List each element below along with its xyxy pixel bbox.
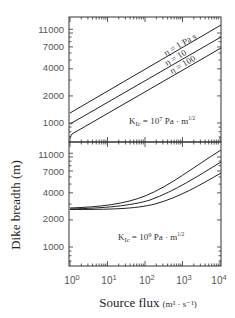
curve-eta-10 (70, 37, 221, 124)
y-tick-label: 2000 (43, 213, 64, 224)
lower-panel-frame (69, 142, 221, 266)
y-tick-label: 4000 (43, 187, 64, 198)
x-tick-label: 101 (101, 273, 116, 286)
y-tick-label: 7000 (43, 166, 64, 177)
x-tick-label: 102 (139, 273, 154, 286)
curve-eta-1-lower (70, 150, 221, 208)
y-axis-title: Dike breadth (m) (8, 160, 23, 250)
lower-y-tick-labels: 11000 7000 4000 2000 1000 (38, 149, 64, 252)
figure-canvas: 11000 7000 4000 2000 1000 11000 7000 400… (0, 0, 235, 318)
x-tick-label: 103 (176, 273, 191, 286)
x-tick-label: 100 (64, 273, 79, 286)
lower-curves (70, 150, 221, 210)
y-tick-label: 1000 (43, 241, 64, 252)
curve-eta-100-lower (70, 173, 221, 210)
upper-y-tick-labels: 11000 7000 4000 2000 1000 (38, 24, 64, 128)
x-tick-labels: 100 101 102 103 104 (64, 273, 226, 286)
x-axis-title: Source flux(m³ · s⁻¹) (99, 295, 197, 310)
y-tick-label: 11000 (38, 149, 64, 160)
y-tick-label: 2000 (43, 90, 64, 101)
lower-kic-annotation: KIc = 109 Pa · m1/2 (118, 231, 184, 243)
y-tick-label: 11000 (38, 24, 64, 35)
y-tick-label: 1000 (43, 117, 64, 128)
x-tick-label: 104 (211, 273, 226, 286)
curve-eta-1 (70, 25, 221, 113)
y-tick-label: 4000 (43, 62, 64, 73)
y-tick-label: 7000 (43, 41, 64, 52)
upper-kic-annotation: KIc = 107 Pa · m1/2 (129, 115, 195, 127)
